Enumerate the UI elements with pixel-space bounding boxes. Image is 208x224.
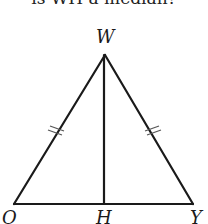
label-w: W [96,26,116,47]
label-h: H [95,207,112,224]
label-o: O [2,207,17,224]
label-y: Y [190,207,204,224]
triangle-diagram: W O H Y [0,0,208,224]
